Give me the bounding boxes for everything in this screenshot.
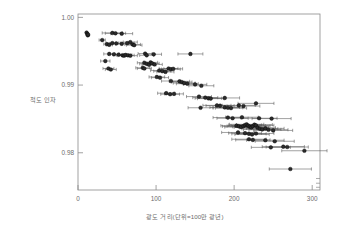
- data-point: [114, 42, 118, 46]
- data-point: [107, 52, 111, 56]
- data-point: [185, 82, 189, 86]
- scatter-chart: 0.980.991.000100200300 척도 인자 광도 거리(단위=10…: [0, 0, 339, 239]
- data-point: [240, 115, 244, 119]
- data-point: [242, 104, 246, 108]
- data-point: [128, 54, 132, 58]
- data-point: [269, 146, 273, 150]
- data-point: [100, 38, 104, 42]
- data-point: [120, 42, 124, 46]
- x-tick-label: 300: [307, 195, 318, 202]
- data-point: [267, 128, 271, 132]
- y-tick-label: 0.99: [62, 81, 75, 88]
- data-point: [109, 68, 113, 72]
- data-point: [143, 67, 147, 71]
- data-point: [285, 145, 289, 149]
- data-point: [112, 52, 116, 56]
- plot-frame: [78, 14, 320, 190]
- data-point: [117, 53, 121, 57]
- data-point: [153, 63, 157, 67]
- data-point: [103, 59, 107, 63]
- data-point: [152, 52, 156, 56]
- y-tick-label: 1.00: [62, 14, 75, 21]
- x-tick-label: 0: [76, 195, 80, 202]
- data-point: [271, 129, 275, 133]
- data-point: [223, 96, 227, 100]
- data-point: [114, 31, 118, 35]
- x-tick-label: 200: [229, 195, 240, 202]
- data-point: [251, 138, 255, 142]
- data-point: [197, 95, 201, 99]
- data-point: [189, 52, 193, 56]
- data-point: [288, 167, 292, 171]
- data-point: [270, 117, 274, 121]
- data-point: [231, 116, 235, 120]
- data-point: [218, 104, 222, 108]
- x-tick-label: 100: [151, 195, 162, 202]
- data-point: [273, 139, 277, 143]
- data-point: [281, 145, 285, 149]
- data-point: [171, 67, 175, 71]
- data-point: [229, 106, 233, 110]
- data-point: [164, 70, 168, 74]
- data-point: [132, 43, 136, 47]
- data-point: [254, 132, 258, 136]
- data-point: [247, 137, 251, 141]
- data-point: [226, 116, 230, 120]
- data-point: [199, 84, 203, 88]
- data-point: [264, 138, 268, 142]
- plot-area: 0.980.991.000100200300: [0, 0, 339, 239]
- data-point: [164, 91, 168, 95]
- data-point: [250, 133, 254, 137]
- data-point: [110, 41, 114, 45]
- data-point: [158, 76, 162, 80]
- data-point: [193, 83, 197, 87]
- data-point: [86, 33, 90, 37]
- data-point: [169, 79, 173, 83]
- data-point: [172, 92, 176, 96]
- data-point: [145, 53, 149, 57]
- data-point: [120, 32, 124, 36]
- data-point: [257, 116, 261, 120]
- data-point: [303, 149, 307, 153]
- x-axis-label: 광도 거리(단위=100만 광년): [70, 212, 300, 221]
- data-point: [254, 102, 258, 106]
- data-point: [243, 131, 247, 135]
- data-point: [199, 106, 203, 110]
- data-point: [209, 97, 213, 101]
- data-point: [236, 131, 240, 135]
- data-point: [237, 104, 241, 108]
- y-axis-label: 척도 인자: [14, 95, 72, 104]
- y-tick-label: 0.98: [62, 149, 75, 156]
- data-point: [168, 92, 172, 96]
